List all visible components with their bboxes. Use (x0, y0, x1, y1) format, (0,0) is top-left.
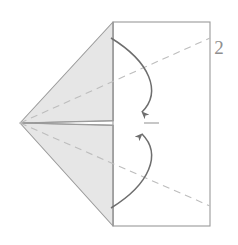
upper-folded-flap (20, 22, 113, 123)
lower-folded-flap (20, 123, 113, 226)
origami-diagram-canvas: 2 (0, 0, 238, 245)
origami-diagram-figure: 2 (0, 0, 238, 245)
step-number-label: 2 (214, 37, 224, 58)
